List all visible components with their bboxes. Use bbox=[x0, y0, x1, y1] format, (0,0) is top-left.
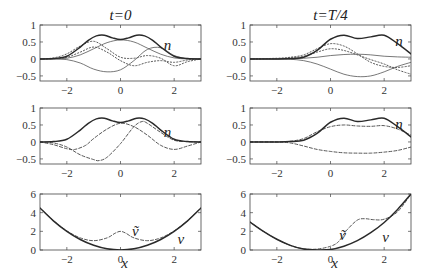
series-n bbox=[250, 118, 411, 142]
series-component-b bbox=[250, 142, 411, 153]
y-tick-label: 2 bbox=[31, 225, 37, 237]
x-tick-label: 2 bbox=[381, 167, 387, 179]
figure: t=010.50−0.5−202nt=T/410.50−0.5−202n10.5… bbox=[0, 0, 428, 279]
x-tick-label: 0 bbox=[118, 167, 124, 179]
x-tick-label: 2 bbox=[171, 253, 177, 265]
series-component-a bbox=[250, 125, 411, 142]
y-tick-label: −0.5 bbox=[16, 153, 36, 165]
y-tick-label: −0.5 bbox=[226, 153, 246, 165]
curve-label: v bbox=[382, 229, 389, 245]
y-tick-label: 1 bbox=[241, 19, 247, 31]
axes-frame bbox=[40, 25, 201, 81]
x-tick-label: −2 bbox=[61, 253, 73, 265]
panel-p31: 6420−202xṽv bbox=[31, 188, 202, 271]
y-tick-label: 0.5 bbox=[232, 36, 246, 48]
y-tick-label: 1 bbox=[31, 19, 37, 31]
y-tick-label: −0.5 bbox=[16, 70, 36, 82]
x-tick-label: −2 bbox=[271, 253, 283, 265]
x-tick-label: −2 bbox=[61, 167, 73, 179]
series-component-a bbox=[40, 123, 201, 149]
series-component-b bbox=[40, 121, 201, 160]
series-component-2 bbox=[250, 59, 411, 77]
x-tick-label: 0 bbox=[328, 167, 334, 179]
axes-frame bbox=[40, 108, 201, 164]
x-tick-label: 0 bbox=[118, 84, 124, 96]
y-tick-label: 4 bbox=[241, 207, 247, 219]
y-tick-label: −0.5 bbox=[226, 70, 246, 82]
x-axis-label: x bbox=[330, 255, 338, 271]
panel-title: t=0 bbox=[110, 7, 132, 23]
series-n bbox=[40, 35, 201, 59]
panel-p22: 10.50−0.5−202n bbox=[226, 102, 411, 179]
axes-frame bbox=[250, 25, 411, 81]
y-tick-label: 0 bbox=[241, 244, 247, 256]
curve-label: n bbox=[395, 33, 403, 49]
y-tick-label: 6 bbox=[241, 188, 247, 200]
panel-p21: 10.50−0.5−202n bbox=[16, 102, 201, 179]
curve-label: v bbox=[178, 231, 185, 247]
x-tick-label: −2 bbox=[61, 84, 73, 96]
x-tick-label: −2 bbox=[271, 84, 283, 96]
y-tick-label: 0 bbox=[241, 53, 247, 65]
curve-label: ṽ bbox=[339, 227, 347, 243]
y-tick-label: 6 bbox=[31, 188, 37, 200]
panel-title: t=T/4 bbox=[313, 7, 348, 23]
y-tick-label: 0 bbox=[241, 136, 247, 148]
x-tick-label: −2 bbox=[271, 167, 283, 179]
y-tick-label: 0 bbox=[31, 53, 37, 65]
y-tick-label: 0 bbox=[31, 136, 37, 148]
panel-p32: 6420−202xṽv bbox=[241, 188, 412, 271]
x-tick-label: 0 bbox=[328, 84, 334, 96]
series-component-2 bbox=[40, 47, 201, 72]
y-tick-label: 0.5 bbox=[22, 36, 36, 48]
axes-frame bbox=[250, 108, 411, 164]
curve-label: n bbox=[164, 124, 172, 140]
y-tick-label: 0.5 bbox=[232, 119, 246, 131]
x-tick-label: 2 bbox=[381, 253, 387, 265]
x-tick-label: 2 bbox=[381, 84, 387, 96]
x-tick-label: 2 bbox=[171, 167, 177, 179]
curve-label: n bbox=[164, 37, 172, 53]
curve-label: ṽ bbox=[132, 223, 140, 239]
panel-p12: t=T/410.50−0.5−202n bbox=[226, 7, 411, 96]
series-n bbox=[40, 118, 201, 142]
y-tick-label: 1 bbox=[31, 102, 37, 114]
y-tick-label: 1 bbox=[241, 102, 247, 114]
panel-p11: t=010.50−0.5−202n bbox=[16, 7, 201, 96]
y-tick-label: 2 bbox=[241, 225, 247, 237]
y-tick-label: 0.5 bbox=[22, 119, 36, 131]
x-axis-label: x bbox=[120, 255, 128, 271]
x-tick-label: 2 bbox=[171, 84, 177, 96]
curve-label: n bbox=[395, 116, 403, 132]
y-tick-label: 4 bbox=[31, 207, 37, 219]
y-tick-label: 0 bbox=[31, 244, 37, 256]
